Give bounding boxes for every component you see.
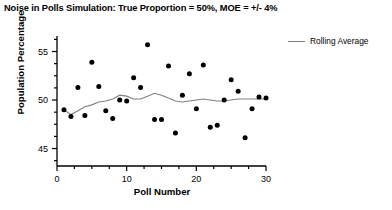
plot-area: 0102030 455055 xyxy=(0,0,392,210)
y-axis-label: Population Percentage xyxy=(15,0,26,125)
poll-result-point xyxy=(257,95,262,100)
poll-result-point xyxy=(166,64,171,69)
x-axis-ticks xyxy=(57,166,266,171)
poll-result-point xyxy=(138,85,143,90)
poll-result-point xyxy=(145,42,150,47)
poll-result-point xyxy=(89,60,94,65)
poll-result-point xyxy=(82,113,87,118)
y-axis-tick-labels: 455055 xyxy=(38,47,48,154)
poll-result-point xyxy=(103,108,108,113)
chart-figure: Noise in Polls Simulation: True Proporti… xyxy=(0,0,392,210)
rolling-average-line xyxy=(64,93,266,114)
x-axis-tick-labels: 0102030 xyxy=(54,174,271,184)
poll-result-point xyxy=(96,84,101,89)
poll-result-point xyxy=(194,106,199,111)
poll-result-point xyxy=(131,75,136,80)
poll-result-point xyxy=(61,107,66,112)
poll-result-point xyxy=(75,85,80,90)
poll-result-point xyxy=(201,63,206,68)
y-tick-label: 55 xyxy=(38,47,48,57)
poll-result-point xyxy=(243,135,248,140)
poll-result-point xyxy=(215,123,220,128)
poll-result-point xyxy=(117,98,122,103)
y-axis-ticks xyxy=(52,39,57,160)
x-tick-label: 30 xyxy=(261,174,271,184)
poll-result-point xyxy=(187,71,192,76)
poll-result-point xyxy=(68,114,73,119)
poll-result-point xyxy=(236,89,241,94)
x-tick-label: 0 xyxy=(54,174,59,184)
poll-result-point xyxy=(250,106,255,111)
poll-result-point xyxy=(110,116,115,121)
axis-spines xyxy=(57,36,266,166)
x-tick-label: 10 xyxy=(122,174,132,184)
poll-result-point xyxy=(180,93,185,98)
poll-result-points xyxy=(61,42,268,140)
x-axis-label: Poll Number xyxy=(97,186,227,197)
y-tick-label: 50 xyxy=(38,95,48,105)
poll-result-point xyxy=(159,117,164,122)
poll-result-point xyxy=(124,99,129,104)
x-tick-label: 20 xyxy=(191,174,201,184)
poll-result-point xyxy=(264,96,269,101)
poll-result-point xyxy=(208,125,213,130)
y-tick-label: 45 xyxy=(38,144,48,154)
poll-result-point xyxy=(173,131,178,136)
poll-result-point xyxy=(152,117,157,122)
poll-result-point xyxy=(229,77,234,82)
poll-result-point xyxy=(222,98,227,103)
